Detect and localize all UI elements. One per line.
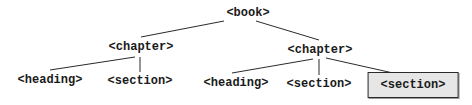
- node-section-1: <section>: [108, 74, 173, 88]
- node-section-highlighted: <section>: [368, 72, 459, 98]
- node-book: <book>: [226, 6, 269, 20]
- xml-tree-diagram: <book> <chapter> <chapter> <heading> <se…: [0, 0, 472, 105]
- edge-book-chapter1: [141, 21, 224, 37]
- edge-chapter1-heading: [50, 57, 135, 70]
- node-heading-2: <heading>: [204, 76, 269, 90]
- edge-chapter2-heading: [232, 59, 313, 73]
- node-heading-1: <heading>: [18, 73, 83, 87]
- edge-book-chapter2: [256, 21, 319, 40]
- node-chapter-1: <chapter>: [109, 40, 174, 54]
- node-section-2: <section>: [287, 77, 352, 91]
- node-chapter-2: <chapter>: [288, 43, 353, 57]
